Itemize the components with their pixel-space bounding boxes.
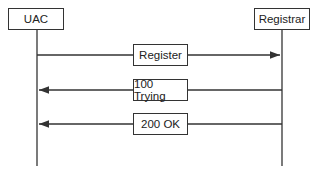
message-100-trying-label: 100 Trying xyxy=(134,78,187,102)
participant-registrar: Registrar xyxy=(254,8,310,30)
participant-uac-label: UAC xyxy=(24,13,48,25)
message-register-label: Register xyxy=(139,49,182,61)
participant-registrar-label: Registrar xyxy=(259,13,306,25)
message-100-trying: 100 Trying xyxy=(133,79,188,101)
message-200-ok: 200 OK xyxy=(133,113,188,135)
message-200-ok-label: 200 OK xyxy=(141,118,180,130)
participant-uac: UAC xyxy=(8,8,64,30)
message-register: Register xyxy=(133,44,188,66)
